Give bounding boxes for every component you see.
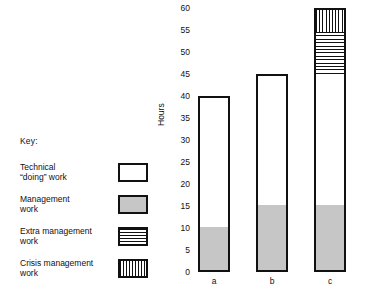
white-swatch-icon bbox=[118, 163, 148, 182]
bar-a[interactable] bbox=[198, 96, 230, 272]
bar-segment-c-white bbox=[316, 75, 344, 205]
bar-segment-b-white bbox=[258, 76, 286, 205]
y-axis-tick-20: 20 bbox=[170, 180, 190, 189]
y-axis-tick-0: 0 bbox=[170, 268, 190, 277]
bar-segment-c-vstripe bbox=[316, 10, 344, 32]
plot-area: abc bbox=[194, 8, 358, 272]
y-axis-tick-55: 55 bbox=[170, 26, 190, 35]
bar-segment-c-hstripe bbox=[316, 32, 344, 75]
legend-item-extra-management-work: Extra management work bbox=[20, 224, 148, 248]
legend-item-technical-work: Technical “doing” work bbox=[20, 160, 148, 184]
y-axis-tick-40: 40 bbox=[170, 92, 190, 101]
bar-segment-a-gray bbox=[200, 227, 228, 270]
bar-segment-c-gray bbox=[316, 205, 344, 270]
bar-b[interactable] bbox=[256, 74, 288, 272]
y-axis-tick-50: 50 bbox=[170, 48, 190, 57]
y-axis-tick-5: 5 bbox=[170, 246, 190, 255]
bar-segment-b-gray bbox=[258, 205, 286, 270]
legend-item-label: Extra management work bbox=[20, 226, 106, 247]
y-axis-tick-10: 10 bbox=[170, 224, 190, 233]
y-axis-tick-30: 30 bbox=[170, 136, 190, 145]
y-axis-label: Hours bbox=[156, 103, 166, 126]
stacked-bar-chart: Hours 051015202530354045505560 abc bbox=[158, 8, 358, 296]
legend-item-crisis-management-work: Crisis management work bbox=[20, 256, 148, 280]
legend-title: Key: bbox=[20, 136, 148, 146]
legend-item-label: Technical “doing” work bbox=[20, 162, 106, 183]
category-label-c: c bbox=[314, 276, 346, 286]
bar-c[interactable] bbox=[314, 8, 346, 272]
legend-item-label: Management work bbox=[20, 194, 106, 215]
bar-segment-a-white bbox=[200, 98, 228, 227]
y-axis-tick-15: 15 bbox=[170, 202, 190, 211]
chart-legend: Key: Technical “doing” work Management w… bbox=[20, 136, 148, 288]
y-axis-tick-60: 60 bbox=[170, 4, 190, 13]
y-axis-tick-45: 45 bbox=[170, 70, 190, 79]
category-label-a: a bbox=[198, 276, 230, 286]
y-axis-tick-35: 35 bbox=[170, 114, 190, 123]
vertical-stripe-swatch-icon bbox=[118, 259, 148, 278]
gray-swatch-icon bbox=[118, 195, 148, 214]
y-axis-ticks: 051015202530354045505560 bbox=[170, 8, 190, 272]
y-axis-tick-25: 25 bbox=[170, 158, 190, 167]
horizontal-stripe-swatch-icon bbox=[118, 227, 148, 246]
legend-item-management-work: Management work bbox=[20, 192, 148, 216]
category-label-b: b bbox=[256, 276, 288, 286]
legend-item-label: Crisis management work bbox=[20, 258, 106, 279]
